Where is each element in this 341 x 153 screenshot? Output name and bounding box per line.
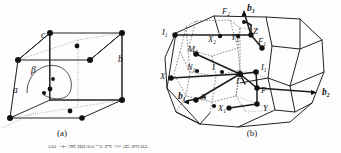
panel-a-caption: (a) [57, 128, 67, 138]
label-M2: M2 [187, 45, 198, 55]
b2-arrow-head [311, 90, 317, 95]
label-I1-right: I1 [260, 63, 267, 73]
label-Y: Y [263, 104, 269, 113]
label-b3: b3 [247, 2, 255, 14]
label-I1: I1 [161, 28, 168, 38]
label-a-vector: a [13, 84, 18, 95]
unit-cell-hidden-edges [10, 33, 122, 118]
figure-canvas: a b c β (a) [0, 0, 341, 153]
panel-b-brillouin-zone: b1 b2 b3 F2 Z F1 I1 [159, 2, 330, 138]
label-b1: b1 [178, 90, 186, 102]
label-F1: F1 [257, 37, 266, 47]
label-N: N [200, 93, 207, 102]
panel-b-caption: (b) [247, 128, 258, 138]
label-c-vector: c [41, 29, 46, 40]
bottom-caption-text: 图 单斐晶胞与其布里渊区 [48, 145, 149, 149]
label-X1: X1 [217, 104, 226, 114]
label-Z: Z [253, 27, 258, 36]
label-F2: F2 [221, 7, 230, 17]
label-X2: X2 [207, 35, 216, 45]
label-b2: b2 [322, 86, 330, 98]
unit-cell-visible-edges [10, 33, 122, 118]
b3-arrow-head [242, 10, 247, 16]
label-F: F [260, 86, 267, 95]
figure-root: a b c β (a) [0, 0, 341, 153]
label-Gamma: Γ [235, 77, 242, 86]
panel-a-labels: a b c β [13, 29, 123, 95]
bottom-caption-strip: 图 单斐晶胞与其布里渊区 [0, 145, 341, 153]
label-beta-angle: β [30, 64, 36, 75]
label-N1: N1 [186, 63, 196, 73]
panel-a-unit-cell: a b c β (a) [2, 29, 125, 138]
label-b-vector: b [118, 53, 123, 64]
label-X: X [159, 72, 166, 81]
label-I: I [211, 63, 216, 72]
